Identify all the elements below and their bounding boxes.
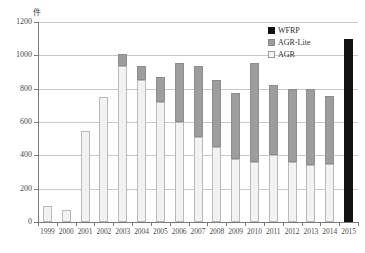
y-axis-tick-label: 1000 <box>2 51 32 59</box>
x-axis-tick <box>76 222 77 226</box>
bar-group <box>250 22 259 222</box>
y-axis-unit-label: 件 <box>33 8 41 17</box>
x-axis-tick <box>113 222 114 226</box>
bar-segment-agr <box>288 162 297 222</box>
bar-chart: 件 020040060080010001200 1999200020012002… <box>0 0 365 253</box>
x-axis-tick <box>207 222 208 226</box>
bar-group <box>344 22 353 222</box>
y-axis-tick <box>34 155 38 156</box>
bar-group <box>231 22 240 222</box>
y-axis-tick-label: 600 <box>2 118 32 126</box>
bar-group <box>156 22 165 222</box>
wfrp-swatch-icon <box>268 27 275 34</box>
x-axis-tick <box>283 222 284 226</box>
bar-segment-agr-lite <box>118 54 127 67</box>
x-axis-tick <box>189 222 190 226</box>
bar-group <box>137 22 146 222</box>
bar-segment-agr <box>43 206 52 222</box>
y-axis-tick <box>34 89 38 90</box>
x-axis-tick <box>226 222 227 226</box>
x-axis-tick-label: 2006 <box>170 228 189 236</box>
bar-segment-agr-lite <box>306 89 315 165</box>
x-axis-tick-label: 2005 <box>151 228 170 236</box>
legend-item-label: WFRP <box>278 26 300 35</box>
bar-segment-agr-lite <box>194 66 203 137</box>
x-axis-tick <box>151 222 152 226</box>
bar-segment-agr-lite <box>288 89 297 162</box>
x-axis-tick-label: 2000 <box>57 228 76 236</box>
x-axis-tick <box>339 222 340 226</box>
y-axis-tick <box>34 55 38 56</box>
bar-segment-agr <box>175 122 184 222</box>
x-axis-tick-label: 2001 <box>76 228 95 236</box>
agr-lite-swatch-icon <box>268 39 275 46</box>
y-axis-line <box>38 22 39 223</box>
x-axis-tick-label: 2015 <box>339 228 358 236</box>
bar-segment-agr <box>269 155 278 222</box>
y-axis-tick-label: 800 <box>2 85 32 93</box>
x-axis-tick-label: 2003 <box>113 228 132 236</box>
bar-group <box>325 22 334 222</box>
bar-segment-agr-lite <box>325 96 334 164</box>
y-axis-tick <box>34 22 38 23</box>
x-axis-tick-label: 2008 <box>207 228 226 236</box>
y-axis-tick-label: 1200 <box>2 18 32 26</box>
bar-segment-agr <box>81 131 90 222</box>
x-axis-tick-label: 2014 <box>320 228 339 236</box>
bar-segment-agr <box>194 137 203 222</box>
bar-segment-agr-lite <box>231 93 240 159</box>
bar-segment-agr <box>137 80 146 222</box>
legend-item: AGR <box>268 49 310 60</box>
x-axis-tick <box>170 222 171 226</box>
x-axis-tick-label: 1999 <box>38 228 57 236</box>
legend-item: WFRP <box>268 25 310 36</box>
x-axis-tick <box>320 222 321 226</box>
bar-group <box>118 22 127 222</box>
y-axis-tick-label: 400 <box>2 151 32 159</box>
bar-segment-agr-lite <box>137 66 146 80</box>
x-axis-line <box>38 222 359 223</box>
bar-group <box>43 22 52 222</box>
x-axis-tick-label: 2007 <box>189 228 208 236</box>
bar-segment-agr <box>99 97 108 222</box>
y-axis-tick-label: 0 <box>2 218 32 226</box>
bar-segment-agr <box>250 162 259 222</box>
x-axis-tick-label: 2013 <box>302 228 321 236</box>
bar-segment-agr <box>212 147 221 222</box>
legend: WFRPAGR-LiteAGR <box>268 25 310 61</box>
legend-item-label: AGR-Lite <box>278 38 310 47</box>
y-axis-tick <box>34 122 38 123</box>
x-axis-tick-label: 2012 <box>283 228 302 236</box>
bar-group <box>81 22 90 222</box>
x-axis-tick <box>38 222 39 226</box>
bar-group <box>194 22 203 222</box>
y-axis-tick-label: 200 <box>2 185 32 193</box>
bar-segment-agr-lite <box>269 85 278 156</box>
x-axis-tick-label: 2010 <box>245 228 264 236</box>
x-axis-tick-label: 2004 <box>132 228 151 236</box>
agr-swatch-icon <box>268 51 275 58</box>
bar-group <box>99 22 108 222</box>
x-axis-tick <box>57 222 58 226</box>
legend-item: AGR-Lite <box>268 37 310 48</box>
bar-segment-agr-lite <box>212 80 221 147</box>
bar-segment-agr <box>306 165 315 223</box>
x-axis-tick <box>245 222 246 226</box>
bar-group <box>175 22 184 222</box>
bar-segment-agr-lite <box>156 77 165 102</box>
bar-segment-agr <box>156 102 165 222</box>
bar-group <box>62 22 71 222</box>
x-axis-tick-label: 2009 <box>226 228 245 236</box>
x-axis-tick <box>132 222 133 226</box>
x-axis-tick <box>358 222 359 226</box>
bar-segment-agr-lite <box>175 63 184 122</box>
x-axis-tick <box>94 222 95 226</box>
x-axis-tick-label: 2011 <box>264 228 283 236</box>
bar-segment-agr <box>231 159 240 222</box>
bar-segment-wfrp <box>344 39 353 222</box>
bar-segment-agr-lite <box>250 63 259 162</box>
x-axis-tick <box>302 222 303 226</box>
y-axis-tick <box>34 189 38 190</box>
bar-segment-agr <box>325 164 334 222</box>
x-axis-tick <box>264 222 265 226</box>
